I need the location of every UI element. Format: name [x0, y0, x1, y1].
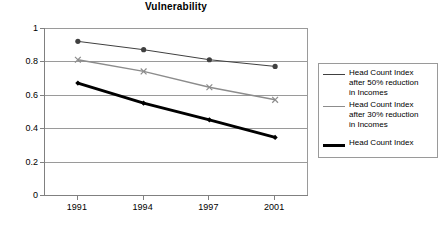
y-tick-label: 0.8: [4, 57, 38, 66]
x-tick-label: 1994: [113, 203, 173, 212]
x-tick-mark: [143, 196, 144, 200]
legend-line-swatch: [323, 139, 345, 148]
chart-legend: Head Count Index after 50% reduction in …: [318, 63, 438, 158]
vulnerability-line-chart: Vulnerability 00.20.40.60.81 19911994199…: [0, 0, 443, 229]
data-point: [207, 57, 212, 62]
series-layer: [45, 28, 308, 195]
y-tick-label: 0.4: [4, 124, 38, 133]
legend-label: Head Count Index: [349, 138, 414, 148]
data-point: [273, 64, 278, 69]
series-line: [78, 83, 275, 137]
y-tick-label: 1: [4, 24, 38, 33]
x-tick-label: 2001: [244, 203, 304, 212]
legend-entry-3[interactable]: Head Count Index: [323, 138, 435, 148]
plot-area: [44, 28, 308, 196]
series-line: [78, 41, 275, 66]
y-axis: 00.20.40.60.81: [0, 0, 38, 229]
legend-label: Head Count Index after 50% reduction in …: [349, 68, 418, 98]
legend-entry-2[interactable]: Head Count Index after 30% reduction in …: [323, 100, 435, 130]
x-tick-label: 1997: [178, 203, 238, 212]
chart-title: Vulnerability: [44, 1, 308, 13]
series-3: [75, 81, 277, 140]
x-tick-label: 1991: [47, 203, 107, 212]
y-tick-label: 0: [4, 191, 38, 200]
data-point: [141, 47, 146, 52]
x-tick-mark: [77, 196, 78, 200]
y-tick-label: 0.6: [4, 91, 38, 100]
legend-line-swatch: [323, 101, 345, 110]
legend-line-swatch: [323, 69, 345, 78]
series-line: [78, 60, 275, 100]
legend-label: Head Count Index after 30% reduction in …: [349, 100, 418, 130]
y-tick-label: 0.2: [4, 158, 38, 167]
legend-entry-1[interactable]: Head Count Index after 50% reduction in …: [323, 68, 435, 98]
x-tick-mark: [208, 196, 209, 200]
x-tick-mark: [274, 196, 275, 200]
data-point: [75, 39, 80, 44]
